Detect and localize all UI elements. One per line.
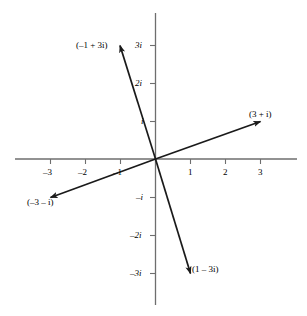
vector-label-minus1-plus-3i: (–1 + 3i)	[76, 41, 108, 50]
y-tick-label-neg3i: –3i	[130, 269, 142, 278]
y-tick-label-neg2i: –2i	[130, 231, 142, 240]
vector-label-3-plus-i: (3 + i)	[249, 110, 272, 119]
x-tick-label-neg1: –1	[113, 168, 122, 177]
y-tick-label-pos1i: i	[141, 117, 144, 126]
x-tick-label-pos3: 3	[258, 168, 263, 177]
x-tick-label-neg3: –3	[43, 168, 52, 177]
x-tick-label-pos1: 1	[188, 168, 193, 177]
y-tick-label-pos3i: 3i	[135, 41, 142, 50]
complex-plane-figure: –3 –2 –1 1 2 3 3i 2i i –i –2i –3i (–1 + …	[0, 0, 307, 316]
vector-3-plus-i	[156, 122, 261, 160]
y-tick-label-pos2i: 2i	[135, 79, 142, 88]
y-tick-label-neg1i: –i	[136, 193, 143, 202]
x-tick-label-neg2: –2	[78, 168, 87, 177]
x-tick-label-pos2: 2	[223, 168, 228, 177]
plot-canvas	[0, 0, 307, 316]
vector-label-minus3-minus-i: (–3 – i)	[27, 198, 54, 207]
vector-minus1-plus-3i	[120, 46, 156, 160]
vector-1-minus-3i	[156, 159, 191, 274]
vector-label-1-minus-3i: (1 – 3i)	[192, 265, 219, 274]
